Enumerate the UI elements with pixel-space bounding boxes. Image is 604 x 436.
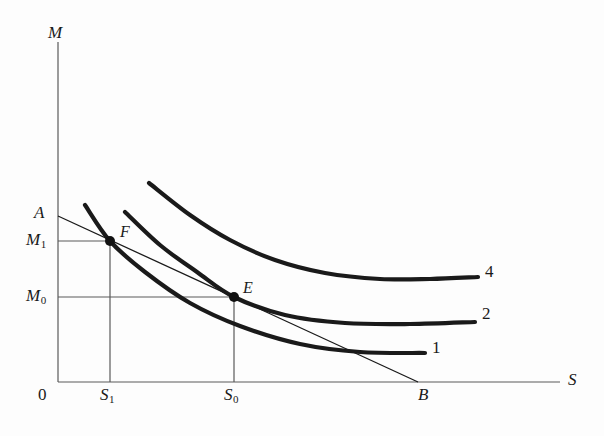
label-a-intercept: A	[34, 204, 44, 221]
point-e-marker	[229, 292, 239, 302]
x-axis-label: S	[568, 371, 577, 388]
label-m0-subscript: 0	[40, 294, 46, 306]
curve-2-label: 2	[482, 305, 491, 322]
label-b-intercept: B	[418, 386, 428, 403]
label-s0-subscript: 0	[233, 393, 239, 405]
curve-4-label: 4	[485, 263, 494, 280]
label-m0: M0	[26, 287, 46, 306]
indifference-curve-4	[149, 183, 478, 280]
curve-1-label: 1	[432, 339, 441, 356]
indifference-curve-figure: M S 0 A M1 M0 S1 S0 B F E 4 2 1	[0, 0, 604, 436]
label-m0-base: M	[26, 286, 40, 305]
label-s1-base: S	[100, 385, 109, 404]
indifference-curves-group	[85, 183, 478, 353]
point-e-label: E	[243, 280, 253, 296]
point-f-label: F	[120, 224, 130, 240]
origin-label: 0	[38, 386, 47, 403]
label-m1: M1	[26, 231, 46, 250]
label-m1-subscript: 1	[40, 238, 46, 250]
point-f-marker	[105, 236, 115, 246]
axes-group	[58, 42, 560, 382]
label-s1: S1	[100, 386, 115, 405]
label-m1-base: M	[26, 230, 40, 249]
figure-canvas	[0, 0, 604, 436]
label-s0: S0	[224, 386, 239, 405]
label-s0-base: S	[224, 385, 233, 404]
y-axis-label: M	[48, 24, 62, 41]
label-s1-subscript: 1	[109, 393, 115, 405]
